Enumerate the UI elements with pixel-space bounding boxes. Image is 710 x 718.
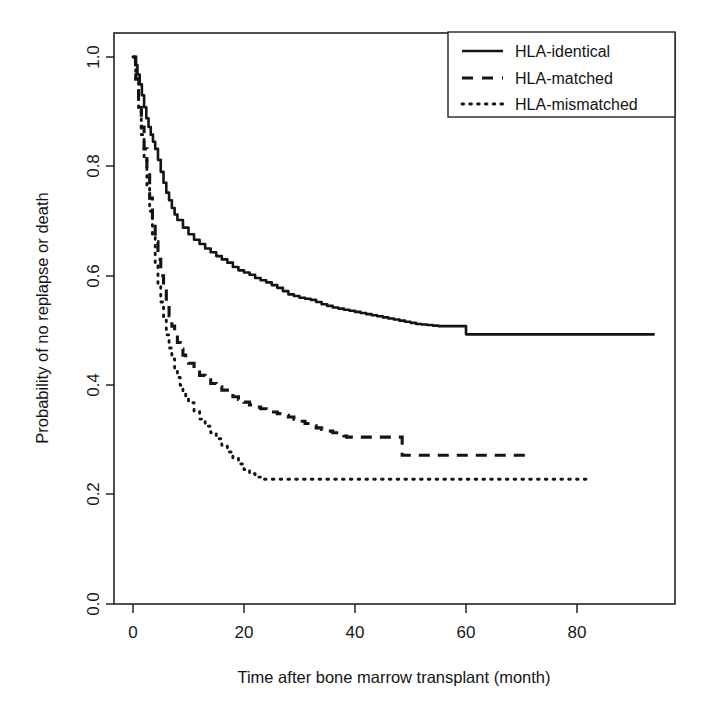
- y-tick-label-3: 0.6: [84, 264, 103, 288]
- y-tick-label-5: 1.0: [84, 45, 103, 69]
- x-tick-label-1: 20: [235, 623, 254, 642]
- legend-label-1: HLA-matched: [515, 70, 613, 87]
- x-tick-label-4: 80: [568, 623, 587, 642]
- legend-label-0: HLA-identical: [515, 43, 610, 60]
- y-axis-title: Probability of no replapse or death: [33, 192, 51, 443]
- x-tick-label-2: 40: [346, 623, 365, 642]
- series-curves: [133, 57, 655, 479]
- y-axis-ticks: 0.0 0.2 0.4 0.6 0.8 1.0: [84, 45, 114, 616]
- y-tick-label-0: 0.0: [84, 592, 103, 616]
- x-axis-title: Time after bone marrow transplant (month…: [237, 668, 550, 686]
- x-tick-label-0: 0: [128, 623, 137, 642]
- x-tick-label-3: 60: [457, 623, 476, 642]
- legend: HLA-identical HLA-matched HLA-mismatched: [448, 32, 675, 117]
- curve-hla-mismatched: [133, 57, 588, 479]
- kaplan-meier-figure: 0.0 0.2 0.4 0.6 0.8 1.0 0 20 40 60 80 Ti…: [0, 0, 710, 718]
- x-axis-ticks: 0 20 40 60 80: [128, 604, 586, 642]
- legend-label-2: HLA-mismatched: [515, 96, 638, 113]
- y-tick-label-2: 0.4: [84, 373, 103, 397]
- y-tick-label-4: 0.8: [84, 154, 103, 178]
- survival-plot-svg: 0.0 0.2 0.4 0.6 0.8 1.0 0 20 40 60 80 Ti…: [0, 0, 710, 718]
- y-tick-label-1: 0.2: [84, 482, 103, 506]
